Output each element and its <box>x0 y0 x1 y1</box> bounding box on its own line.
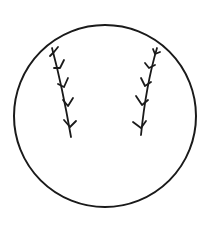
baseball-icon <box>0 0 211 229</box>
left-seam-stitches <box>50 47 76 137</box>
right-seam-stitches <box>133 48 160 135</box>
ball-outline <box>14 25 196 207</box>
baseball-illustration <box>0 0 211 229</box>
